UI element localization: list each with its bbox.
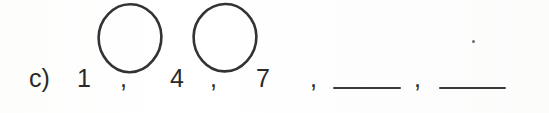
sequence-separator-2: , <box>210 66 217 91</box>
sequence-separator-1: , <box>120 66 127 91</box>
worksheet-sheet: c) 1 , 4 , 7 , , <box>0 0 549 113</box>
sequence-term-3: 7 <box>256 66 270 91</box>
hand-drawn-circle-annotation-2 <box>188 1 264 77</box>
sequence-separator-4: , <box>414 66 421 91</box>
hand-drawn-circle-annotation-1 <box>92 1 168 77</box>
answer-blank-1[interactable] <box>333 87 401 89</box>
answer-blank-2[interactable] <box>439 87 506 89</box>
sequence-term-1: 1 <box>77 66 91 91</box>
sequence-term-2: 4 <box>170 66 184 91</box>
scan-speck <box>472 40 475 43</box>
item-label: c) <box>29 66 50 91</box>
sequence-separator-3: , <box>310 66 317 91</box>
paper-background <box>0 0 549 113</box>
